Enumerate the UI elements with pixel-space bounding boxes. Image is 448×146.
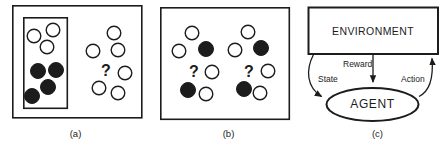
panel-b: ?? (b) [161, 8, 289, 139]
question-mark: ? [244, 63, 254, 80]
open-circle [92, 81, 106, 95]
environment-label: ENVIRONMENT [332, 25, 414, 37]
panel-b-caption: (b) [223, 128, 235, 139]
open-circle [86, 44, 100, 58]
panel-b-qmarks: ?? [189, 63, 254, 80]
filled-circle [237, 82, 252, 97]
open-circle [172, 44, 186, 58]
panel-c: ENVIRONMENT Reward State Action AGENT (c… [309, 8, 439, 140]
open-circle [46, 23, 60, 37]
panel-a-circles [25, 23, 132, 103]
filled-circle [41, 80, 56, 95]
open-circle [40, 40, 54, 54]
filled-circle [31, 64, 46, 79]
open-circle [253, 86, 267, 100]
open-circle [228, 43, 242, 57]
filled-circle [199, 42, 214, 57]
panel-c-caption: (c) [372, 128, 383, 139]
filled-circle [25, 89, 40, 104]
panel-b-outer-box [161, 8, 289, 120]
state-label: State [318, 74, 338, 84]
filled-circle [49, 63, 64, 78]
panel-a-qmarks: ? [101, 62, 111, 79]
open-circle [27, 29, 41, 43]
rl-concept-figure: ? (a) ?? (b) ENVIRONMENT Reward State Ac… [0, 0, 448, 146]
panel-a: ? (a) [13, 6, 142, 139]
open-circle [261, 64, 275, 78]
open-circle [111, 86, 125, 100]
question-mark: ? [101, 62, 111, 79]
action-label: Action [401, 74, 425, 84]
open-circle [118, 66, 132, 80]
filled-circle [181, 83, 196, 98]
agent-label: AGENT [350, 97, 394, 111]
open-circle [205, 65, 219, 79]
open-circle [199, 87, 213, 101]
figure-canvas: ? (a) ?? (b) ENVIRONMENT Reward State Ac… [0, 0, 448, 146]
panel-b-circles [172, 25, 275, 101]
reward-label: Reward [343, 59, 373, 69]
open-circle [185, 26, 199, 40]
open-circle [111, 43, 125, 57]
panel-a-caption: (a) [70, 128, 82, 139]
open-circle [107, 26, 121, 40]
filled-circle [254, 41, 269, 56]
open-circle [241, 25, 255, 39]
question-mark: ? [189, 63, 199, 80]
